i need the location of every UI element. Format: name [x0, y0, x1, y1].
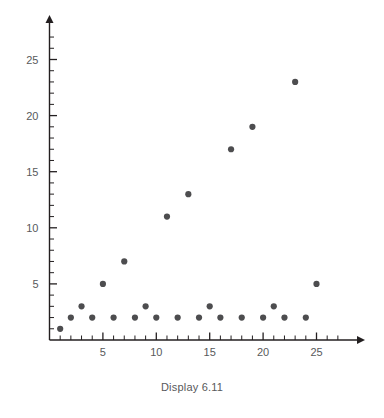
y-tick-label: 20: [26, 110, 38, 122]
data-point: [271, 303, 277, 309]
data-point: [281, 314, 287, 320]
data-point: [292, 79, 298, 85]
data-point: [239, 314, 245, 320]
data-point: [100, 281, 106, 287]
data-point: [143, 303, 149, 309]
y-tick-label: 10: [26, 222, 38, 234]
data-point: [303, 314, 309, 320]
data-point: [185, 191, 191, 197]
data-point: [164, 213, 170, 219]
data-point: [207, 303, 213, 309]
data-point: [260, 314, 266, 320]
y-tick-label: 25: [26, 54, 38, 66]
x-tick-label: 15: [204, 346, 216, 358]
data-point: [132, 314, 138, 320]
data-point: [249, 124, 255, 130]
data-point: [57, 326, 63, 332]
data-point: [78, 303, 84, 309]
data-point: [68, 314, 74, 320]
data-point: [196, 314, 202, 320]
data-point: [89, 314, 95, 320]
scatter-plot: 510152025 510152025: [0, 0, 384, 418]
data-point: [217, 314, 223, 320]
x-tick-label: 10: [150, 346, 162, 358]
data-point: [110, 314, 116, 320]
x-tick-label: 5: [100, 346, 106, 358]
y-tick-label: 15: [26, 166, 38, 178]
data-point-series: [57, 79, 320, 332]
figure-caption: Display 6.11: [0, 381, 384, 393]
x-tick-label: 20: [257, 346, 269, 358]
axes: [50, 22, 359, 340]
data-point: [175, 314, 181, 320]
data-point: [228, 146, 234, 152]
x-tick-label: 25: [310, 346, 322, 358]
y-tick-label: 5: [32, 278, 38, 290]
x-axis-tick-labels: 510152025: [100, 346, 323, 358]
data-point: [313, 281, 319, 287]
data-point: [121, 258, 127, 264]
figure-container: 510152025 510152025 Display 6.11: [0, 0, 384, 418]
data-point: [153, 314, 159, 320]
y-axis-tick-labels: 510152025: [26, 54, 38, 290]
